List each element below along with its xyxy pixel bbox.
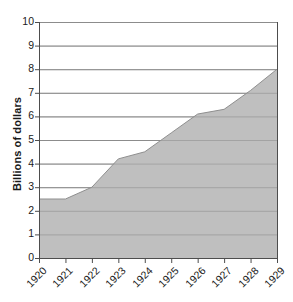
x-axis-tick-label: 1928 — [233, 265, 260, 292]
x-axis-tick-label: 1924 — [127, 265, 154, 292]
x-axis-tick-label: 1925 — [153, 265, 180, 292]
x-axis-tick-labels: 1920192119221923192419251926192719281929 — [0, 0, 293, 302]
x-axis-tick-label: 1923 — [101, 265, 128, 292]
x-axis-tick-label: 1927 — [206, 265, 233, 292]
x-axis-tick-label: 1920 — [21, 265, 48, 292]
x-axis-tick-label: 1926 — [180, 265, 207, 292]
x-axis-tick-label: 1921 — [48, 265, 75, 292]
x-axis-tick-label: 1922 — [74, 265, 101, 292]
area-chart: Billions of dollars 012345678910 1920192… — [0, 0, 293, 302]
x-axis-tick-label: 1929 — [259, 265, 286, 292]
